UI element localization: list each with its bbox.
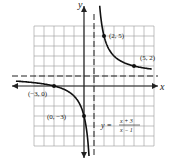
svg-text:x − 1: x − 1 xyxy=(119,127,133,133)
rational-function-graph: (−3, 0)(0, −3)(2, 5)(5, 2) x y y = x + 3… xyxy=(0,0,169,163)
svg-text:x + 3: x + 3 xyxy=(119,118,133,124)
svg-text:y =: y = xyxy=(100,121,112,130)
svg-text:(0, −3): (0, −3) xyxy=(47,113,67,121)
y-axis-label: y xyxy=(77,0,83,10)
svg-text:(−3, 0): (−3, 0) xyxy=(28,90,48,98)
svg-text:(5, 2): (5, 2) xyxy=(140,54,156,62)
svg-text:(2, 5): (2, 5) xyxy=(109,32,125,40)
points: (−3, 0)(0, −3)(2, 5)(5, 2) xyxy=(28,32,156,121)
x-axis-label: x xyxy=(159,81,165,92)
